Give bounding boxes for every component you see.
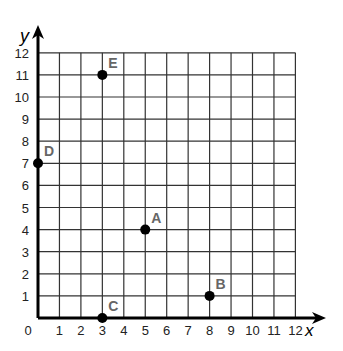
point-label-d: D bbox=[44, 143, 54, 159]
point-a bbox=[140, 225, 150, 235]
y-tick-label: 4 bbox=[22, 223, 29, 238]
point-label-e: E bbox=[108, 55, 117, 71]
x-tick-label: 6 bbox=[163, 323, 170, 338]
x-tick-label: 4 bbox=[120, 323, 127, 338]
point-e bbox=[97, 70, 107, 80]
y-tick-label: 3 bbox=[22, 245, 29, 260]
coordinate-plane: xy0123456789101112123456789101112ABCDE bbox=[0, 0, 343, 351]
point-c bbox=[97, 313, 107, 323]
y-axis-label: y bbox=[18, 26, 30, 46]
y-tick-label: 8 bbox=[22, 134, 29, 149]
y-tick-label: 6 bbox=[22, 178, 29, 193]
x-tick-label: 12 bbox=[288, 323, 302, 338]
x-tick-label: 9 bbox=[227, 323, 234, 338]
x-tick-label: 3 bbox=[99, 323, 106, 338]
x-tick-label: 10 bbox=[245, 323, 259, 338]
point-b bbox=[205, 291, 215, 301]
y-tick-label: 7 bbox=[22, 156, 29, 171]
y-tick-label: 1 bbox=[22, 289, 29, 304]
x-tick-label: 1 bbox=[56, 323, 63, 338]
x-tick-label: 7 bbox=[185, 323, 192, 338]
point-label-c: C bbox=[108, 298, 118, 314]
point-label-a: A bbox=[151, 210, 161, 226]
y-tick-label: 2 bbox=[22, 267, 29, 282]
y-tick-label: 9 bbox=[22, 112, 29, 127]
y-tick-label: 5 bbox=[22, 201, 29, 216]
x-tick-label: 0 bbox=[24, 323, 31, 338]
x-tick-label: 8 bbox=[206, 323, 213, 338]
y-tick-label: 12 bbox=[15, 46, 29, 61]
point-label-b: B bbox=[216, 276, 226, 292]
x-tick-label: 5 bbox=[142, 323, 149, 338]
x-axis-label: x bbox=[304, 321, 314, 340]
y-tick-label: 10 bbox=[15, 90, 29, 105]
y-tick-label: 11 bbox=[16, 68, 30, 83]
point-d bbox=[33, 158, 43, 168]
x-tick-label: 11 bbox=[267, 323, 281, 338]
x-tick-label: 2 bbox=[77, 323, 84, 338]
